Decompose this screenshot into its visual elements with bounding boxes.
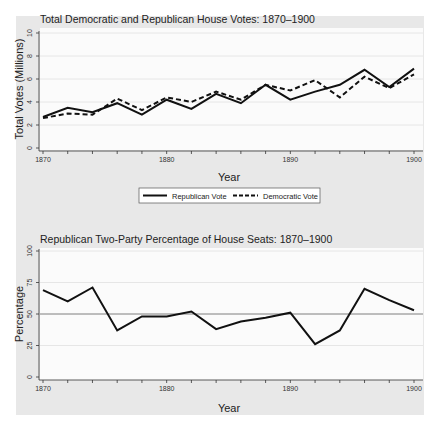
legend-democratic-label: Democratic Vote — [263, 192, 318, 201]
legend-republican-label: Republican Vote — [172, 192, 227, 201]
y-tick-label: 0 — [26, 146, 33, 150]
seats-y-axis-label: Percentage — [13, 286, 25, 342]
y-tick-label: 25 — [26, 342, 33, 350]
x-tick-label: 1880 — [159, 385, 175, 392]
seats-x-axis: 1870188018901900 — [35, 380, 423, 392]
chart-canvas: Total Democratic and Republican House Vo… — [0, 0, 437, 429]
votes-y-axis-label: Total Votes (Millions) — [13, 39, 25, 140]
y-tick-label: 100 — [26, 245, 33, 257]
votes-x-axis: 1870188018901900 — [35, 151, 423, 163]
votes-y-axis: 0246810 — [26, 29, 39, 151]
y-tick-label: 10 — [26, 29, 33, 37]
votes-plot-area — [40, 28, 423, 150]
y-tick-label: 50 — [26, 310, 33, 318]
votes-chart-title: Total Democratic and Republican House Vo… — [40, 13, 315, 25]
x-tick-label: 1890 — [283, 385, 299, 392]
x-tick-label: 1900 — [406, 156, 422, 163]
seats-chart-panel: Republican Two-Party Percentage of House… — [13, 233, 423, 414]
x-tick-label: 1890 — [283, 156, 299, 163]
seats-x-axis-label: Year — [218, 402, 241, 414]
y-tick-label: 2 — [26, 123, 33, 127]
x-tick-label: 1870 — [35, 385, 51, 392]
legend: Republican Vote Democratic Vote — [139, 188, 320, 203]
seats-y-axis: 0255075100 — [26, 245, 39, 380]
x-tick-label: 1870 — [35, 156, 51, 163]
seats-chart-title: Republican Two-Party Percentage of House… — [40, 233, 332, 245]
x-tick-label: 1880 — [159, 156, 175, 163]
y-tick-label: 75 — [26, 279, 33, 287]
y-tick-label: 8 — [26, 54, 33, 58]
y-tick-label: 6 — [26, 77, 33, 81]
y-tick-label: 4 — [26, 100, 33, 104]
votes-x-axis-label: Year — [218, 171, 241, 183]
votes-chart-panel: Total Democratic and Republican House Vo… — [13, 13, 423, 203]
y-tick-label: 0 — [26, 375, 33, 379]
x-tick-label: 1900 — [406, 385, 422, 392]
